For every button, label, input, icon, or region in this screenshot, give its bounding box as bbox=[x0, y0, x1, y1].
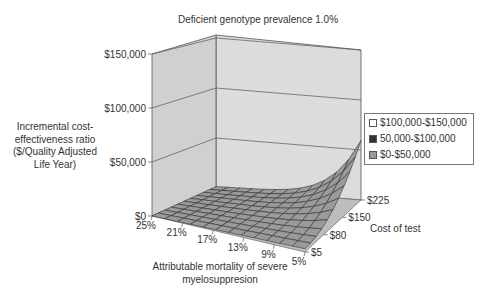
legend-item: 50,000-$100,000 bbox=[365, 131, 473, 146]
z-tick-label: $50,000 bbox=[110, 157, 147, 168]
y-tick-label: $80 bbox=[330, 230, 347, 241]
y-axis-title: Cost of test bbox=[370, 223, 421, 234]
legend-item: $100,000-$150,000 bbox=[365, 115, 473, 130]
y-tick-label: $5 bbox=[311, 247, 323, 258]
legend-swatch bbox=[369, 151, 377, 159]
legend: $100,000-$150,000 50,000-$100,000 $0-$50… bbox=[364, 113, 474, 165]
x-axis-title-line1: Attributable mortality of severe bbox=[152, 261, 287, 272]
z-tick-label: $150,000 bbox=[104, 49, 146, 60]
z-axis-title: Incremental cost-effectiveness ratio($/Q… bbox=[0, 121, 110, 171]
x-tick-label: 9% bbox=[261, 249, 276, 260]
x-tick-label: 21% bbox=[167, 227, 187, 238]
legend-swatch bbox=[369, 135, 377, 143]
legend-item: $0-$50,000 bbox=[365, 147, 473, 162]
z-tick-label: $100,000 bbox=[104, 103, 146, 114]
x-tick-label: 17% bbox=[197, 234, 217, 245]
y-tick-label: $225 bbox=[367, 195, 390, 206]
z-axis: $0$50,000$100,000$150,000 bbox=[104, 49, 152, 222]
x-tick-label: 5% bbox=[292, 256, 307, 267]
x-tick-label: 25% bbox=[136, 220, 156, 231]
chart-title: Deficient genotype prevalence 1.0% bbox=[178, 14, 338, 25]
y-tick-label: $150 bbox=[348, 212, 371, 223]
legend-swatch bbox=[369, 119, 377, 127]
x-axis-title-line2: myelosuppresion bbox=[182, 274, 258, 285]
x-tick-label: 13% bbox=[228, 242, 248, 253]
side-wall bbox=[152, 35, 216, 216]
